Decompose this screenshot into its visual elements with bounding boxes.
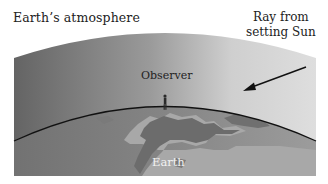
observer-label: Observer — [141, 70, 192, 81]
ray-label-line1: Ray from — [246, 10, 316, 25]
ray-label-line2: setting Sun — [246, 25, 316, 40]
atmosphere-refraction-diagram: Earth’s atmosphere Ray from setting Sun … — [0, 0, 328, 184]
atmosphere-label: Earth’s atmosphere — [13, 12, 140, 25]
earth-label: Earth — [152, 157, 185, 169]
ray-label: Ray from setting Sun — [246, 10, 316, 40]
